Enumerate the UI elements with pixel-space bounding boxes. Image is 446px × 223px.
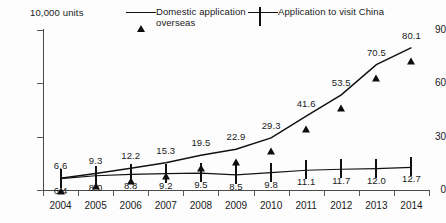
filled-triangle-marker-icon [337,87,345,105]
data-point-label: 8.0 [76,183,116,193]
data-point-label: 19.5 [181,138,221,148]
data-point-label: 12.2 [111,151,151,161]
legend-item-application-to-visit-china: Application to visit China [248,6,384,18]
data-point-label: 6.4 [41,186,81,196]
x-axis-tick-label: 2011 [286,200,326,211]
data-point-label: 22.9 [216,132,256,142]
x-axis-tick [324,191,325,196]
filled-triangle-marker-icon [302,108,310,126]
y-axis-tick-label: 60 [412,78,446,88]
data-point-label: 8.5 [216,182,256,192]
legend-item-domestic-application-overseas: Domestic application overseas [126,6,264,28]
y-axis-tick [37,83,43,84]
filled-triangle-marker-icon [372,57,380,75]
x-axis-tick-label: 2008 [181,200,221,211]
data-point-label: 11.1 [286,177,326,187]
open-square-marker-icon [248,7,278,18]
x-axis-tick [183,191,184,196]
x-axis-tick-label: 2009 [216,200,256,211]
filled-triangle-marker-icon [267,130,275,148]
data-point-label: 15.3 [146,146,186,156]
x-axis-tick [148,191,149,196]
y-axis-tick [37,137,43,138]
y-axis-tick-label: 30 [412,132,446,142]
x-axis-tick-label: 2004 [41,200,81,211]
x-axis-tick-label: 2014 [391,200,431,211]
data-point-label: 11.7 [321,176,361,186]
data-point-label: 12.0 [356,176,396,186]
data-point-label: 70.5 [356,48,396,58]
x-axis-tick [289,191,290,196]
filled-triangle-marker-icon [126,7,156,18]
x-axis-tick-label: 2010 [251,200,291,211]
data-point-label: 53.5 [321,78,361,88]
filled-triangle-marker-icon [232,142,240,160]
x-axis-tick-label: 2013 [356,200,396,211]
data-point-label: 9.5 [181,180,221,190]
x-axis-tick [359,191,360,196]
data-point-label: 29.3 [251,121,291,131]
filled-triangle-marker-icon [407,40,415,58]
x-axis-tick-label: 2012 [321,200,361,211]
data-point-label: 8.8 [111,181,151,191]
legend-label: Application to visit China [278,6,384,17]
data-point-label: 41.6 [286,99,326,109]
x-axis-tick-label: 2007 [146,200,186,211]
data-point-label: 9.2 [146,181,186,191]
x-axis-tick [429,191,430,196]
chart-figure: 10,000 units Domestic application overse… [0,0,446,223]
y-axis-tick [37,30,43,31]
data-point-label: 80.1 [391,31,431,41]
data-point-label: 12.7 [391,174,431,184]
data-point-label: 9.8 [251,180,291,190]
x-axis-tick-label: 2006 [111,200,151,211]
x-axis-tick [394,191,395,196]
y-axis-unit-caption: 10,000 units [30,7,84,18]
x-axis-tick-label: 2005 [76,200,116,211]
